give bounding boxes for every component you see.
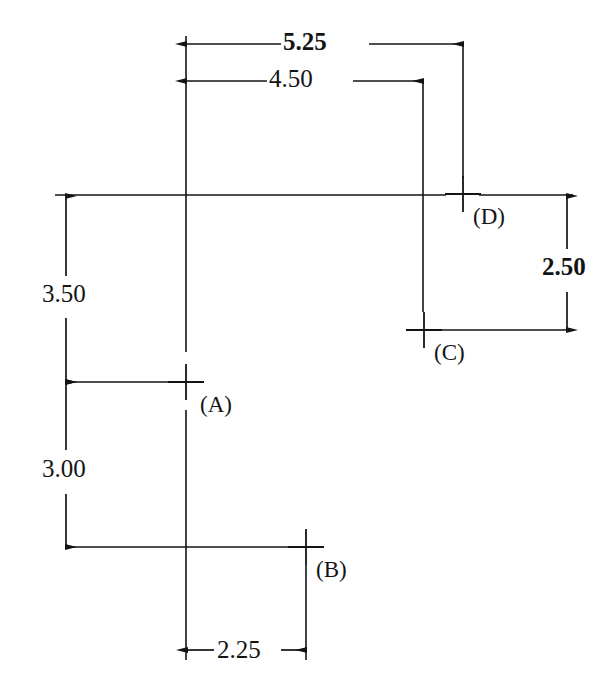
dimension-label-300: 3.00 bbox=[42, 456, 86, 481]
point-label-b: (B) bbox=[316, 558, 347, 581]
point-marker-a bbox=[168, 364, 204, 400]
dimension-drawing-svg bbox=[0, 0, 616, 698]
point-label-d: (D) bbox=[473, 205, 505, 228]
dimension-label-350: 3.50 bbox=[42, 281, 86, 306]
dimension-label-450: 4.50 bbox=[269, 66, 313, 91]
point-label-a: (A) bbox=[200, 393, 232, 416]
dimension-label-525: 5.25 bbox=[283, 29, 327, 54]
drawing-canvas: 5.25 4.50 3.50 3.00 2.50 2.25 (A) (B) (C… bbox=[0, 0, 616, 698]
point-label-c: (C) bbox=[434, 341, 465, 364]
dimension-label-250: 2.50 bbox=[542, 254, 586, 279]
dimension-label-225: 2.25 bbox=[217, 637, 261, 662]
